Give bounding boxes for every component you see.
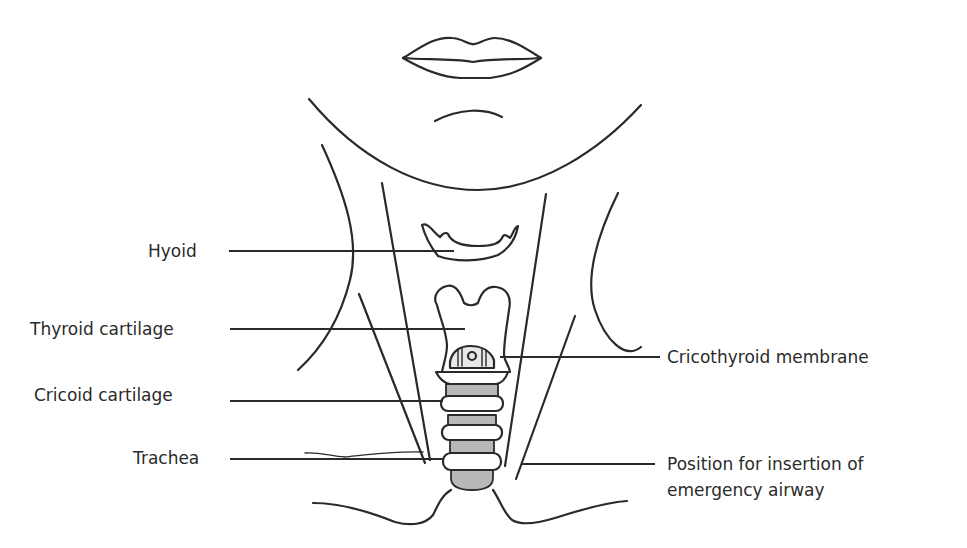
label-thyroid-cartilage: Thyroid cartilage <box>30 318 174 340</box>
sternal-notch-contour-right <box>493 490 627 523</box>
sternal-notch-contour <box>313 490 451 524</box>
cricoid-cartilage <box>436 372 508 384</box>
lips-upper <box>403 38 541 62</box>
label-hyoid: Hyoid <box>148 240 197 262</box>
label-cricoid-cartilage: Cricoid cartilage <box>34 384 173 406</box>
label-cricothyroid-membrane: Cricothyroid membrane <box>667 346 869 368</box>
tracheal-ring <box>443 453 501 470</box>
trachea-skin-fold <box>305 452 423 457</box>
trachea-bottom-segment <box>451 470 493 490</box>
jaw-line <box>309 99 641 190</box>
label-trachea: Trachea <box>133 447 199 469</box>
neck-contour-right <box>591 193 641 351</box>
label-airway-position-line1: Position for insertion of <box>667 453 864 475</box>
cricothyroid-membrane <box>450 346 494 368</box>
neck-contour-left <box>298 145 353 370</box>
label-airway-position-line2: emergency airway <box>667 479 825 501</box>
tracheal-ring <box>441 396 503 411</box>
chin-crease <box>435 111 502 121</box>
tracheal-ring <box>442 425 502 440</box>
hyoid-bone <box>422 224 518 260</box>
